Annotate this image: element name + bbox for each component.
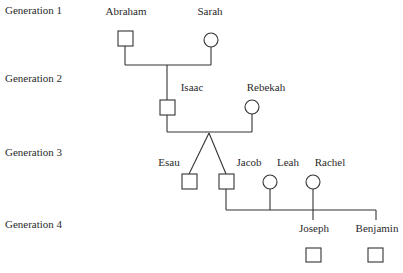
male-square-icon-esau (182, 174, 197, 189)
male-square-icon-joseph (306, 248, 321, 262)
twin-line-esau (189, 133, 209, 174)
pedigree-chart (0, 0, 403, 273)
male-square-icon-abraham (118, 31, 133, 46)
male-square-icon-isaac (160, 100, 175, 115)
female-circle-icon-sarah (204, 33, 218, 47)
male-square-icon-jacob (219, 174, 234, 189)
female-circle-icon-rachel (306, 175, 320, 189)
female-circle-icon-rebekah (245, 100, 259, 114)
male-square-icon-benjamin (368, 248, 383, 262)
twin-line-jacob (209, 133, 226, 174)
female-circle-icon-leah (263, 175, 277, 189)
